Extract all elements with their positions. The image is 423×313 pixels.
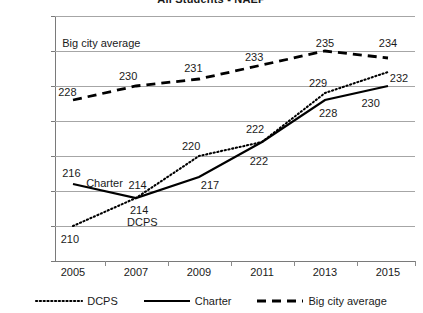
x-tick-label: 2015: [358, 266, 418, 278]
point-label: 220: [182, 140, 200, 152]
point-label: 233: [245, 51, 263, 63]
point-label: 234: [379, 37, 397, 49]
legend-swatch-dotted: [36, 296, 82, 306]
point-label: 214: [130, 204, 148, 216]
point-label: 230: [361, 97, 379, 109]
legend-label: Charter: [195, 295, 232, 307]
legend-label: Big city average: [308, 295, 386, 307]
point-label: 210: [61, 233, 79, 245]
series-lines: [55, 16, 415, 261]
legend-label: DCPS: [87, 295, 118, 307]
point-label: 222: [250, 155, 268, 167]
legend-item-dcps[interactable]: DCPS: [36, 295, 118, 307]
chart-legend: DCPSCharterBig city average: [0, 289, 423, 313]
legend-swatch-solid: [144, 296, 190, 306]
legend-item-big-city-average[interactable]: Big city average: [257, 295, 386, 307]
legend-swatch-dashed: [257, 296, 303, 306]
x-tick-label: 2007: [106, 266, 166, 278]
point-label: 214: [128, 179, 146, 191]
series-annotation: DCPS: [127, 216, 158, 228]
naep-line-chart: All Students - NAEP 20521021522022523023…: [0, 0, 423, 313]
point-label: 229: [309, 77, 327, 89]
point-label: 228: [58, 86, 76, 98]
point-label: 235: [316, 37, 334, 49]
point-label: 232: [390, 72, 408, 84]
series-annotation: Charter: [86, 177, 123, 189]
x-tick-label: 2009: [169, 266, 229, 278]
x-tick-label: 2013: [295, 266, 355, 278]
x-tick-label: 2005: [43, 266, 103, 278]
point-label: 222: [246, 123, 264, 135]
plot-area: 205210215220225230235240 200520072009201…: [55, 16, 415, 261]
point-label: 216: [62, 167, 80, 179]
chart-title: All Students - NAEP: [0, 0, 423, 5]
x-axis-line: [55, 261, 415, 262]
series-line-dcps: [73, 72, 388, 226]
legend-item-charter[interactable]: Charter: [144, 295, 232, 307]
x-tick-label: 2011: [232, 266, 292, 278]
point-label: 217: [201, 179, 219, 191]
series-annotation: Big city average: [62, 37, 140, 49]
point-label: 231: [184, 62, 202, 74]
point-label: 230: [119, 70, 137, 82]
point-label: 228: [319, 107, 337, 119]
